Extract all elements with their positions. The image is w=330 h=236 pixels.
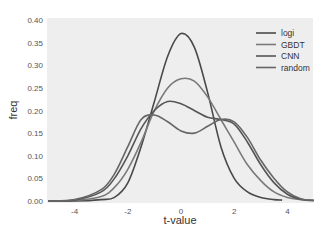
y-axis-label: freq (7, 101, 19, 120)
y-tick-label: 0.40 (27, 16, 43, 25)
x-tick-label: 4 (285, 207, 290, 216)
y-tick-label: 0.30 (27, 61, 43, 70)
legend-label-logi: logi (281, 28, 294, 38)
y-tick-label: 0.15 (27, 129, 43, 138)
kde-line-chart: 0.000.050.100.150.200.250.300.350.40 -4-… (0, 0, 330, 236)
x-tick-label: 2 (232, 207, 237, 216)
y-tick-label: 0.10 (27, 152, 43, 161)
x-axis-label: t-value (163, 214, 196, 226)
y-tick-label: 0.05 (27, 174, 43, 183)
y-tick-label: 0.35 (27, 39, 43, 48)
legend-label-CNN: CNN (281, 51, 299, 61)
plot-area (47, 18, 313, 203)
legend-label-random: random (281, 63, 310, 73)
y-tick-label: 0.00 (27, 197, 43, 206)
y-tick-label: 0.20 (27, 107, 43, 116)
y-tick-label: 0.25 (27, 84, 43, 93)
legend-label-GBDT: GBDT (281, 40, 305, 50)
x-tick-label: -2 (124, 207, 132, 216)
x-tick-label: -4 (71, 207, 79, 216)
y-axis-ticks: 0.000.050.100.150.200.250.300.350.40 (27, 16, 43, 206)
